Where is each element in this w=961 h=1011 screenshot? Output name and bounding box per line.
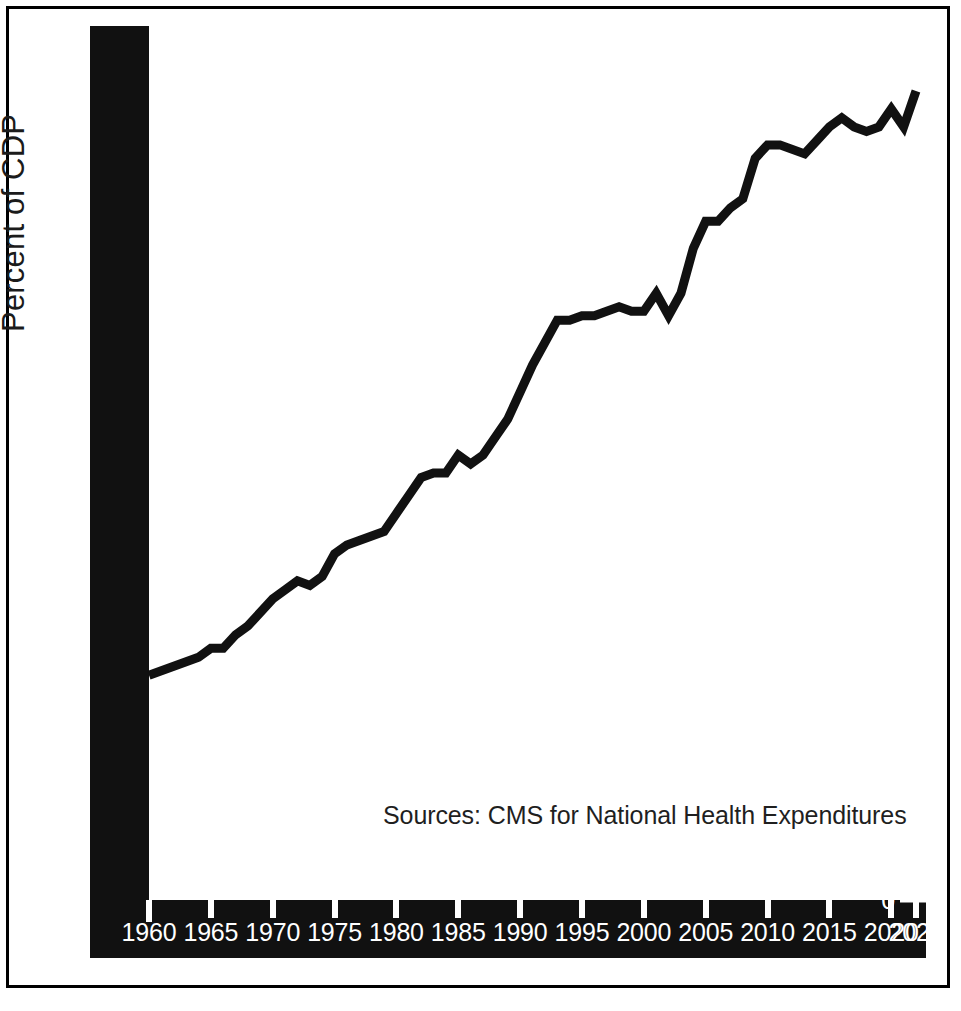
plot-area: 012345678910111213141516171819 196019651… bbox=[90, 26, 926, 958]
series-polyline bbox=[149, 91, 916, 675]
y-axis-title: Percent of CDP bbox=[0, 32, 32, 332]
chart-figure: Percent of CDP 0123456789101112131415161… bbox=[0, 0, 961, 1011]
source-note: Sources: CMS for National Health Expendi… bbox=[383, 801, 907, 830]
